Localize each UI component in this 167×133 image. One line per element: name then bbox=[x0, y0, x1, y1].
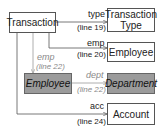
edge-line-emp: (line 20) bbox=[77, 50, 106, 59]
edge-label-dept: dept bbox=[86, 70, 104, 80]
node-label-line2: Type bbox=[120, 20, 142, 31]
node-label: Transaction bbox=[7, 17, 59, 28]
node-label-line1: Transaction bbox=[105, 9, 157, 20]
node-label: Department bbox=[105, 78, 157, 89]
node-label: Employee bbox=[109, 47, 153, 58]
node-transaction: Transaction bbox=[9, 12, 56, 33]
node-employee-shaded: Employee bbox=[24, 73, 72, 94]
node-label: Employee bbox=[26, 78, 70, 89]
edge-label-type: type bbox=[88, 9, 105, 19]
node-department: Department bbox=[107, 73, 155, 94]
node-account: Account bbox=[107, 103, 155, 125]
node-label: Account bbox=[113, 109, 149, 120]
edge-line-emp-gray: (line 22) bbox=[36, 62, 65, 71]
node-employee: Employee bbox=[107, 42, 155, 62]
edge-label-emp: emp bbox=[87, 38, 105, 48]
edge-line-acc: (line 24) bbox=[77, 117, 106, 126]
node-transaction-type: Transaction Type bbox=[107, 8, 155, 32]
edge-line-type: (line 19) bbox=[77, 23, 106, 32]
edge-line-dept: (line 22) bbox=[77, 85, 106, 94]
edge-label-acc: acc bbox=[90, 101, 104, 111]
edge-label-emp-gray: emp bbox=[37, 52, 55, 62]
